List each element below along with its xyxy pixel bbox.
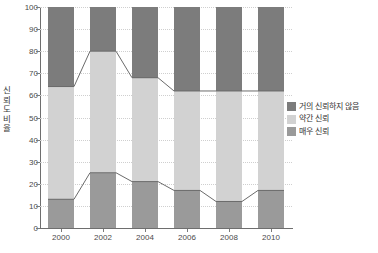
y-tick-label: 30 — [14, 157, 38, 166]
x-tick-mark — [271, 229, 272, 232]
legend-item[interactable]: 약간 신뢰 — [287, 114, 378, 125]
legend-label: 매우 신뢰 — [299, 127, 329, 137]
y-axis-title-char: 율 — [1, 124, 13, 134]
y-tick-label: 70 — [14, 69, 38, 78]
legend-label: 약간 신뢰 — [299, 114, 329, 124]
y-tick-label: 60 — [14, 91, 38, 100]
legend-item[interactable]: 거의 신뢰하지 않음 — [287, 101, 378, 112]
chart-legend: 거의 신뢰하지 않음약간 신뢰매우 신뢰 — [287, 101, 378, 139]
y-tick-label: 100 — [14, 3, 38, 12]
y-tick-label: 40 — [14, 135, 38, 144]
legend-label: 거의 신뢰하지 않음 — [299, 102, 359, 112]
y-tick-label: 10 — [14, 201, 38, 210]
x-tick-label: 2010 — [262, 233, 280, 242]
y-tick-label: 90 — [14, 25, 38, 34]
y-tick-mark — [36, 162, 40, 163]
x-tick-mark — [187, 229, 188, 232]
connector-line — [48, 173, 284, 202]
y-tick-mark — [36, 7, 40, 8]
x-tick-mark — [229, 229, 230, 232]
x-axis-line — [40, 228, 293, 229]
legend-item[interactable]: 매우 신뢰 — [287, 126, 378, 137]
y-axis-tick-labels: 0102030405060708090100 — [14, 0, 38, 253]
x-tick-label: 2002 — [94, 233, 112, 242]
y-tick-mark — [36, 95, 40, 96]
x-tick-label: 2004 — [136, 233, 154, 242]
y-tick-label: 50 — [14, 113, 38, 122]
stacked-bar-chart: 신뢰도비율 0102030405060708090100 20002002200… — [0, 0, 378, 253]
y-tick-mark — [36, 118, 40, 119]
connector-line-overlay — [40, 7, 292, 228]
y-tick-mark — [36, 228, 40, 229]
y-tick-label: 0 — [14, 224, 38, 233]
legend-swatch — [287, 115, 296, 124]
x-tick-label: 2000 — [52, 233, 70, 242]
y-tick-label: 80 — [14, 47, 38, 56]
connector-line — [48, 51, 284, 91]
x-tick-mark — [145, 229, 146, 232]
y-tick-mark — [36, 206, 40, 207]
y-tick-mark — [36, 29, 40, 30]
x-tick-label: 2008 — [220, 233, 238, 242]
y-tick-mark — [36, 73, 40, 74]
y-tick-label: 20 — [14, 179, 38, 188]
y-tick-mark — [36, 184, 40, 185]
legend-swatch — [287, 102, 296, 111]
legend-swatch — [287, 127, 296, 136]
x-tick-mark — [103, 229, 104, 232]
y-axis-title: 신뢰도비율 — [1, 86, 13, 134]
y-tick-mark — [36, 140, 40, 141]
x-tick-label: 2006 — [178, 233, 196, 242]
y-tick-mark — [36, 51, 40, 52]
x-tick-mark — [61, 229, 62, 232]
